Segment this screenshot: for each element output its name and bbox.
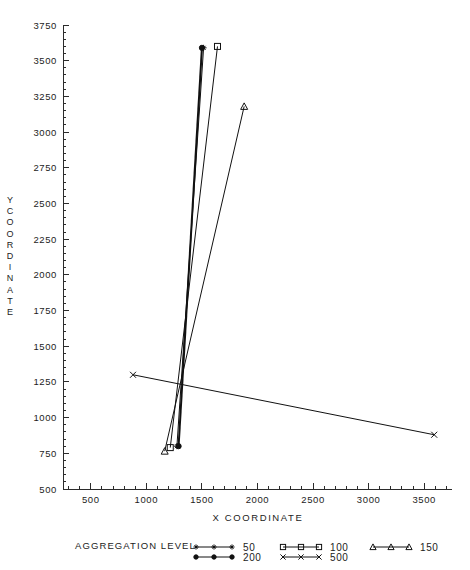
y-tick-label: 2250	[33, 234, 57, 245]
x-tick-label: 3000	[357, 494, 381, 505]
x-tick-label: 3500	[412, 494, 436, 505]
filled-circle-marker	[212, 555, 216, 559]
y-axis-title-char: Y	[7, 195, 13, 205]
y-tick-label: 750	[39, 448, 57, 459]
legend-title: AGGREGATION LEVEL	[75, 540, 196, 551]
legend-label-150: 150	[420, 542, 439, 553]
y-tick-label: 3250	[33, 91, 57, 102]
y-tick-label: 3500	[33, 55, 57, 66]
y-axis-title-char: A	[7, 285, 13, 295]
y-axis-title-char: O	[6, 217, 13, 227]
y-axis-title-char: C	[7, 206, 14, 216]
x-tick-label: 1000	[135, 494, 159, 505]
y-tick-label: 2500	[33, 198, 57, 209]
y-axis-title-char: I	[9, 262, 12, 272]
y-axis-title-char: T	[7, 296, 13, 306]
x-axis-title: X COORDINATE	[213, 512, 304, 523]
scatter-line-plot: 5007501000125015001750200022502500275030…	[0, 0, 470, 570]
y-tick-label: 1500	[33, 341, 57, 352]
y-axis-title-char: D	[7, 251, 14, 261]
y-tick-label: 2750	[33, 162, 57, 173]
y-tick-label: 2000	[33, 269, 57, 280]
legend-label-500: 500	[330, 552, 349, 563]
x-tick-label: 500	[82, 494, 100, 505]
y-tick-label: 1000	[33, 412, 57, 423]
chart-container: 5007501000125015001750200022502500275030…	[0, 0, 470, 570]
filled-circle-marker	[230, 555, 234, 559]
y-tick-label: 500	[39, 484, 57, 495]
y-tick-label: 3000	[33, 127, 57, 138]
y-axis-title-char: O	[6, 229, 13, 239]
y-tick-label: 3750	[33, 20, 57, 31]
x-tick-label: 2500	[301, 494, 325, 505]
y-axis-title-char: R	[7, 240, 14, 250]
y-axis-title-char: N	[7, 273, 14, 283]
x-tick-label: 2000	[246, 494, 270, 505]
filled-circle-marker	[199, 45, 204, 50]
legend-label-200: 200	[243, 552, 262, 563]
plot-background	[0, 0, 470, 570]
y-tick-label: 1250	[33, 376, 57, 387]
x-tick-label: 1500	[190, 494, 214, 505]
y-axis-title-char: E	[7, 307, 13, 317]
y-tick-label: 1750	[33, 305, 57, 316]
filled-circle-marker	[194, 555, 198, 559]
filled-circle-marker	[176, 444, 181, 449]
y-axis-title: YCOORDINATE	[6, 195, 13, 317]
